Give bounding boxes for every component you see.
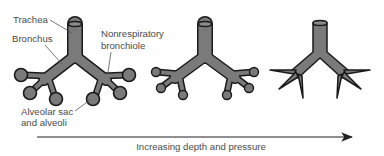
trachea-opening <box>69 22 82 27</box>
leader-nonrespiratory <box>108 52 111 72</box>
label-trachea: Trachea <box>13 14 49 25</box>
depth-arrow: Increasing depth and pressure <box>37 137 352 152</box>
leader-alveolar <box>75 100 90 111</box>
label-alveolar-line2: and alveoli <box>21 117 67 128</box>
lung-compression-diagram: Trachea Bronchus Nonrespiratory bronchio… <box>0 0 384 156</box>
airway-tree-collapsed <box>270 21 370 99</box>
trachea-opening <box>199 22 212 27</box>
leader-bronchus <box>45 45 62 64</box>
trachea-opening <box>313 21 327 26</box>
arrow-caption: Increasing depth and pressure <box>136 141 266 152</box>
label-nonrespiratory-line2: bronchiole <box>101 40 145 51</box>
label-nonrespiratory-line1: Nonrespiratory <box>101 28 164 39</box>
label-alveolar-line1: Alveolar sac <box>21 106 73 117</box>
airway-tree-compressed <box>152 22 259 100</box>
label-bronchus: Bronchus <box>12 33 53 44</box>
